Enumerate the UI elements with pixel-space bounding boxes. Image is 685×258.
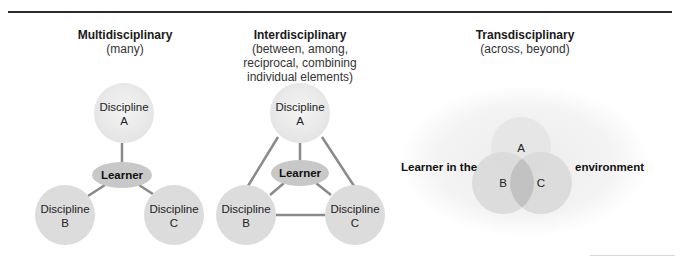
discipline-b-label: Discipline <box>40 203 89 215</box>
discipline-a-node <box>94 83 154 143</box>
discipline-b-node <box>216 185 276 245</box>
environment-label: environment <box>575 161 644 173</box>
multidisciplinary-diagram: Discipline A Learner Discipline B Discip… <box>35 83 204 245</box>
discipline-a-letter: A <box>296 115 304 127</box>
connector-learner-b <box>270 183 284 195</box>
discipline-b-node <box>35 185 95 245</box>
learner-label: Learner <box>279 167 322 179</box>
learner-label: Learner <box>101 169 144 181</box>
connector-learner-b <box>88 185 105 196</box>
diagram-canvas: Discipline A Learner Discipline B Discip… <box>0 0 685 258</box>
discipline-a-label: Discipline <box>275 101 324 113</box>
connector-a-b <box>248 137 278 186</box>
connector-learner-c <box>316 183 331 195</box>
bottom-rule <box>590 255 675 256</box>
discipline-c-letter: C <box>351 217 359 229</box>
discipline-c-node <box>325 185 385 245</box>
transdisciplinary-diagram: A B C Learner in the environment <box>400 85 650 237</box>
discipline-b-letter: B <box>242 217 250 229</box>
discipline-b-label: Discipline <box>221 203 270 215</box>
discipline-c-label: Discipline <box>149 203 198 215</box>
discipline-a-letter: A <box>120 115 128 127</box>
discipline-a-label: Discipline <box>99 101 148 113</box>
discipline-c-node <box>144 185 204 245</box>
connector-a-c <box>322 137 354 186</box>
venn-label-c: C <box>537 177 545 189</box>
venn-label-b: B <box>499 177 507 189</box>
discipline-b-letter: B <box>61 217 69 229</box>
venn-label-a: A <box>517 142 525 154</box>
learner-in-the-label: Learner in the <box>401 161 477 173</box>
interdisciplinary-diagram: Discipline A Learner Discipline B Discip… <box>216 83 385 245</box>
discipline-c-label: Discipline <box>330 203 379 215</box>
discipline-c-letter: C <box>170 217 178 229</box>
discipline-a-node <box>270 83 330 143</box>
